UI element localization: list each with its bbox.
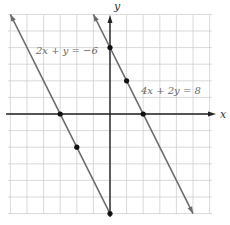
coordinate-plane: x y 2x + y = −6 4x + 2y = 8: [0, 0, 230, 225]
data-point: [74, 145, 79, 150]
data-point: [107, 45, 112, 50]
equation-label-line1: 2x + y = −6: [35, 45, 99, 56]
data-point: [124, 78, 129, 83]
x-axis-label: x: [220, 108, 227, 121]
equation-label-line2: 4x + 2y = 8: [140, 85, 201, 96]
data-point: [58, 111, 63, 116]
y-axis-label: y: [113, 0, 121, 13]
data-point: [107, 211, 112, 216]
data-point: [141, 111, 146, 116]
